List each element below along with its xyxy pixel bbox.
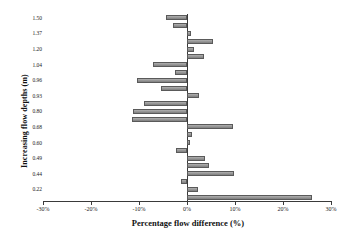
y-axis-tick-label: 0.96 (12, 77, 42, 83)
y-axis-tick-label: 1.50 (12, 15, 42, 21)
y-axis-tick-label: 0.60 (12, 140, 42, 146)
bar (187, 163, 209, 168)
y-axis-tick-label: 0.49 (12, 155, 42, 161)
x-axis-tick-label: 10% (215, 206, 255, 212)
y-axis-tick-label: 0.22 (12, 186, 42, 192)
y-axis-tick-label: 0.44 (12, 171, 42, 177)
x-axis-title: Percentage flow difference (%) (43, 216, 333, 230)
bar (187, 171, 234, 176)
x-axis-tick-label: 20% (263, 206, 303, 212)
x-axis-tick (43, 201, 44, 205)
bar (187, 93, 199, 98)
bar (133, 109, 187, 114)
bar (187, 156, 205, 161)
x-axis-tick (91, 201, 92, 205)
bar (187, 187, 198, 192)
bar (153, 62, 187, 67)
bar (187, 132, 192, 137)
bar (187, 39, 213, 44)
chart-figure: Increasing flow depths (m) Percentage fl… (0, 0, 345, 242)
x-axis-tick (331, 201, 332, 205)
bar (187, 195, 312, 200)
bar (161, 86, 187, 91)
bar (187, 47, 194, 52)
bar (176, 148, 187, 153)
bar (187, 140, 190, 145)
bar (181, 179, 187, 184)
x-axis-tick (139, 201, 140, 205)
y-axis-tick-label: 0.68 (12, 124, 42, 130)
bar (187, 54, 204, 59)
bar (175, 70, 187, 75)
bar (166, 15, 187, 20)
bar (137, 78, 187, 83)
x-axis-tick (235, 201, 236, 205)
y-axis-tick-label: 0.80 (12, 108, 42, 114)
bar (132, 117, 187, 122)
x-axis-tick-label: -10% (119, 206, 159, 212)
x-axis-tick-label: 0% (167, 206, 207, 212)
x-axis-tick (187, 201, 188, 205)
y-axis-tick-label: 0.93 (12, 93, 42, 99)
y-axis-tick-label: 1.04 (12, 62, 42, 68)
bar (144, 101, 187, 106)
bar (187, 124, 233, 129)
x-axis-tick (283, 201, 284, 205)
y-axis-tick-label: 1.20 (12, 46, 42, 52)
y-axis-tick-label: 1.37 (12, 30, 42, 36)
x-axis-tick-label: 30% (311, 206, 345, 212)
bar (187, 31, 191, 36)
x-axis-tick-label: -20% (71, 206, 111, 212)
x-axis-tick-label: -30% (23, 206, 63, 212)
bar (173, 23, 187, 28)
